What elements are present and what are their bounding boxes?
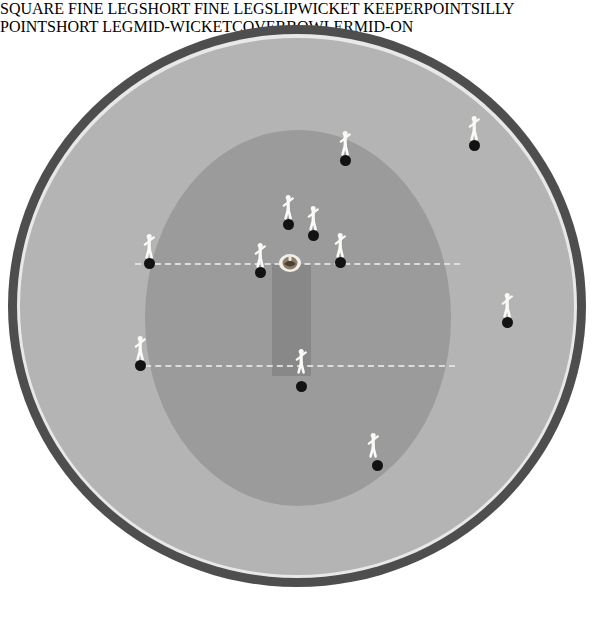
fielder-position-dot — [308, 230, 319, 241]
fielder-position-dot — [502, 317, 513, 328]
fielder-label: SHORT LEG — [47, 18, 133, 35]
fielder-label: SHORT FINE LEG — [139, 0, 265, 17]
fielder-figure-icon — [251, 242, 269, 268]
fielder-figure-icon — [465, 115, 483, 141]
fielder-figure-icon — [336, 130, 354, 156]
fielder-position-dot — [135, 360, 146, 371]
fielder-position-dot — [372, 460, 383, 471]
batsman-at-crease — [278, 252, 302, 274]
fielder-figure-icon — [279, 194, 297, 220]
fielder-label: MID-WICKET — [133, 18, 232, 35]
fielder-label: SQUARE FINE LEG — [0, 0, 139, 17]
fielder-label: WICKET KEEPER — [297, 0, 423, 17]
fielder-figure-icon — [292, 348, 310, 374]
fielder-position-dot — [340, 155, 351, 166]
fielder-position-dot — [469, 140, 480, 151]
fielder-figure-icon — [140, 233, 158, 259]
fielder-label: SLIP — [265, 0, 298, 17]
fielder-label: POINT — [424, 0, 471, 17]
fielder-figure-icon — [131, 335, 149, 361]
fielder-figure-icon — [498, 292, 516, 318]
fielder-position-dot — [335, 257, 346, 268]
fielder-position-dot — [144, 258, 155, 269]
fielder-figure-icon — [304, 205, 322, 231]
fielder-position-dot — [283, 219, 294, 230]
fielder-figure-icon — [331, 232, 349, 258]
cricket-field-diagram: SQUARE FINE LEG SHORT FINE LEG — [0, 0, 600, 624]
fielder-position-dot — [255, 267, 266, 278]
fielder-figure-icon — [364, 432, 382, 458]
fielder-position-dot — [296, 381, 307, 392]
